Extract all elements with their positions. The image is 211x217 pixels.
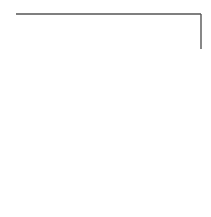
diagram-canvas <box>0 0 211 217</box>
profile-drawing <box>0 0 211 217</box>
